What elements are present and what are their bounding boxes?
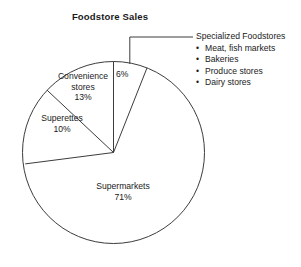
callout-annotation-title: Specialized Foodstores bbox=[196, 31, 301, 43]
callout-annotation: Specialized Foodstores •Meat, fish marke… bbox=[196, 31, 301, 89]
list-item: •Meat, fish markets bbox=[196, 43, 301, 55]
slice-label-convenience-value: 13% bbox=[74, 92, 91, 102]
slice-label-superettes-value: 10% bbox=[53, 124, 70, 134]
callout-annotation-list: •Meat, fish markets •Bakeries •Produce s… bbox=[196, 43, 301, 89]
list-item-label: Dairy stores bbox=[205, 77, 251, 87]
bullet-icon: • bbox=[196, 66, 199, 78]
slice-label-superettes-name: Superettes bbox=[41, 113, 83, 123]
list-item-label: Produce stores bbox=[205, 66, 263, 76]
list-item: •Dairy stores bbox=[196, 77, 301, 89]
list-item-label: Bakeries bbox=[205, 54, 238, 64]
slice-label-supermarkets-name: Supermarkets bbox=[96, 181, 150, 191]
slice-label-convenience-name-1: Convenience bbox=[58, 71, 108, 81]
bullet-icon: • bbox=[196, 77, 199, 89]
slice-label-specialized-value: 6% bbox=[116, 69, 136, 80]
list-item: •Bakeries bbox=[196, 54, 301, 66]
slice-label-supermarkets: Supermarkets 71% bbox=[78, 181, 168, 202]
list-item: •Produce stores bbox=[196, 66, 301, 78]
slice-label-supermarkets-value: 71% bbox=[114, 192, 131, 202]
callout-leader-line bbox=[130, 37, 193, 64]
list-item-label: Meat, fish markets bbox=[205, 43, 275, 53]
slice-label-superettes: Superettes 10% bbox=[27, 113, 97, 134]
pie-chart-figure: Foodstore Sales Supermarkets 71% Conveni… bbox=[0, 0, 301, 267]
bullet-icon: • bbox=[196, 54, 199, 66]
slice-label-convenience-name-2: stores bbox=[71, 82, 94, 92]
slice-label-convenience-stores: Convenience stores 13% bbox=[50, 71, 116, 103]
bullet-icon: • bbox=[196, 43, 199, 55]
